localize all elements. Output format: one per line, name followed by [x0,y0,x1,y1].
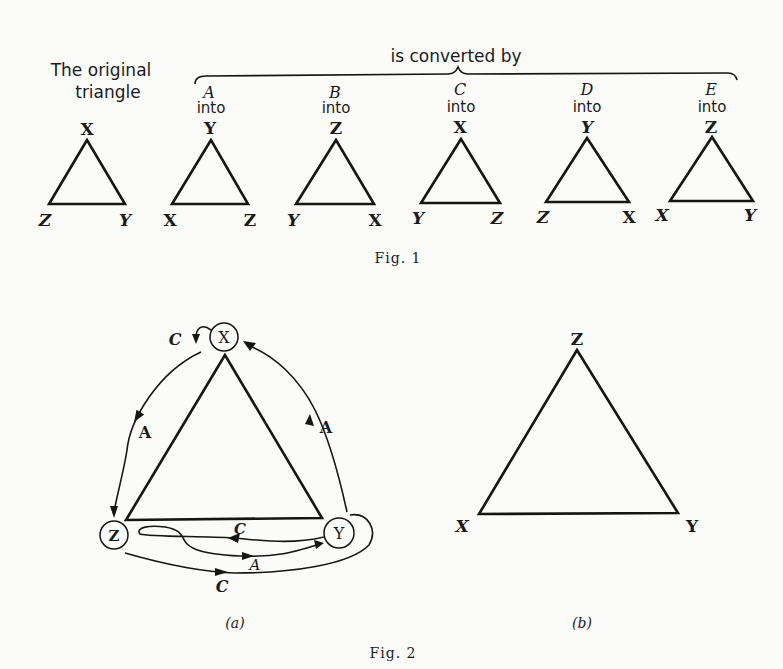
svg-text:Z: Z [109,527,120,545]
vertex-left: Z [536,207,550,227]
svg-text:A: A [248,556,261,574]
vertex-left: X [163,210,177,230]
brace-label: is converted by [390,46,521,66]
vertex-left: Y [412,208,426,228]
svg-text:C: C [234,520,246,538]
vertex-top: Z [705,117,717,137]
vertex-left: X [454,516,469,536]
arrow-x-to-z: A [110,352,201,518]
arrow-y-to-z-inner-c: C [228,520,324,543]
arrow-x-loop-c: C [169,327,211,349]
triangle-conversion-e: E into Z X Y [654,80,758,225]
vertex-top: X [80,119,94,139]
svg-text:Y: Y [333,524,345,543]
vertex-right: Z [490,208,504,228]
fig1-caption: Fig. 1 [375,250,422,266]
triangle-conversion-c: C into X Y Z [412,80,504,228]
fig1: The original triangle is converted by X … [38,46,758,266]
into-label: into [447,98,476,116]
vertex-left: Y [287,210,301,230]
vertex-right: Y [744,205,758,225]
node-x: X [210,323,238,351]
vertex-top: X [453,117,467,137]
op-label: C [454,80,466,99]
vertex-right: Y [685,516,699,536]
triangle-conversion-a: A into Y X Z [163,83,256,230]
main-triangle [126,355,322,520]
node-y: Y [324,518,354,548]
svg-text:X: X [218,328,230,347]
into-label: into [322,99,351,117]
op-label: D [580,80,594,99]
arrow-z-to-y-inner-a: A [139,526,324,574]
fig2-b: Z X Y (b) [454,329,699,631]
original-label-line1: The original [50,60,152,80]
svg-text:C: C [216,577,229,596]
vertex-top: Y [581,117,595,137]
svg-text:A: A [138,423,152,442]
vertex-left: X [654,205,669,225]
svg-text:A: A [319,418,333,437]
vertex-left: Z [38,210,52,230]
vertex-right: X [368,210,382,230]
fig2-caption: Fig. 2 [370,645,417,661]
vertex-top: Y [203,118,217,138]
original-label-line2: triangle [75,82,141,102]
arrow-y-to-x: A [243,341,347,512]
sublabel-b: (b) [572,615,592,631]
vertex-right: Z [244,210,256,230]
vertex-right: X [622,207,636,227]
figure-page: The original triangle is converted by X … [0,0,783,669]
node-z: Z [100,521,128,549]
op-label: E [704,80,717,99]
svg-text:C: C [169,330,182,349]
into-label: into [698,98,727,116]
into-label: into [573,98,602,116]
sublabel-a: (a) [225,615,244,631]
fig2-a: X Z Y C A A [100,323,372,631]
into-label: into [197,99,226,117]
triangle-conversion-d: D into Y Z X [536,80,637,227]
triangle-original: X Z Y [38,119,133,230]
vertex-top: Z [330,118,342,138]
vertex-right: Y [119,210,133,230]
triangle-conversion-b: B into Z Y X [287,83,382,230]
vertex-top: Z [571,329,583,349]
